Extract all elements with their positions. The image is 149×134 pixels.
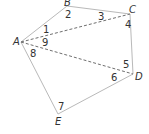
vertex-label-D: D [135,71,143,82]
pentagon-diagram: ABCDE 123456789 [0,0,149,134]
edges-group [21,6,133,114]
angle-label-2: 2 [65,9,71,20]
edge-DE [58,74,133,114]
angle-label-7: 7 [58,101,64,112]
angle-label-1: 1 [43,24,49,35]
vertex-label-A: A [12,36,20,47]
angle-labels-group: 123456789 [30,9,131,112]
angle-label-4: 4 [125,19,131,30]
edge-EA [21,42,58,114]
angle-label-8: 8 [30,48,36,59]
diagonal-AD [21,42,133,74]
diagonal-AC [21,14,130,42]
angle-label-3: 3 [98,11,104,22]
vertex-label-B: B [64,0,71,8]
angle-label-5: 5 [123,59,129,70]
angle-label-9: 9 [42,37,48,48]
vertex-label-E: E [55,116,62,127]
angle-label-6: 6 [111,72,117,83]
vertex-label-C: C [129,4,136,15]
